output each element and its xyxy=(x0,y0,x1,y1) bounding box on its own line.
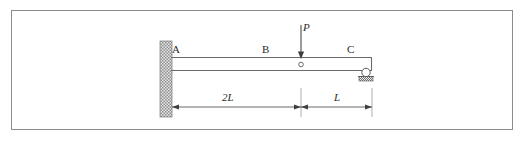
dimension-arrow-left-icon xyxy=(301,104,308,109)
dimension-arrow-right-icon xyxy=(294,104,301,109)
beam-diagram-canvas xyxy=(0,0,526,143)
point-label-a: A xyxy=(172,44,180,55)
dimension-label-l: L xyxy=(334,92,340,103)
dimension-label-2l: 2L xyxy=(222,92,234,103)
load-label-p: P xyxy=(303,22,310,33)
dimension-line-2l xyxy=(172,104,301,109)
beam-diagram-figure: A B C P 2L L xyxy=(0,0,526,143)
fixed-wall-support-icon xyxy=(160,41,172,117)
dimension-arrow-right-icon xyxy=(365,104,372,109)
dimension-line-l xyxy=(301,104,372,109)
point-label-b: B xyxy=(262,44,269,55)
dimension-arrow-left-icon xyxy=(172,104,179,109)
internal-hinge-icon xyxy=(299,62,304,67)
point-label-c: C xyxy=(347,44,354,55)
beam-member xyxy=(171,58,372,71)
